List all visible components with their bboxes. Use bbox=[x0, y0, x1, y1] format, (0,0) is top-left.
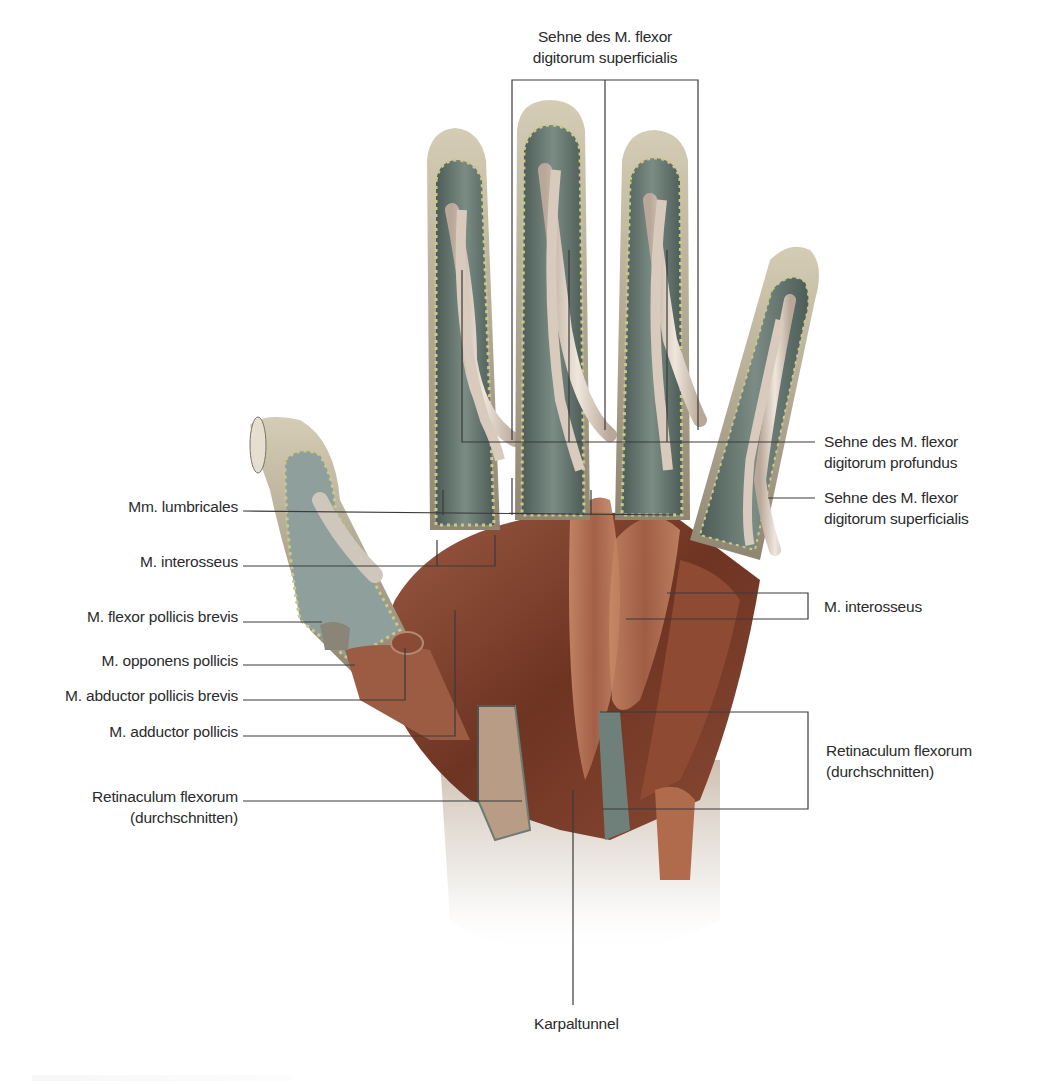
label-sehne-fds-top: Sehne des M. flexor digitorum superficia… bbox=[520, 26, 690, 68]
label-sehne-fds-right: Sehne des M. flexor digitorum superficia… bbox=[824, 487, 968, 529]
label-line-1: Sehne des M. flexor bbox=[824, 487, 968, 508]
label-line-2: (durchschnitten) bbox=[92, 807, 238, 828]
label-retinaculum-right: Retinaculum flexorum (durchschnitten) bbox=[826, 740, 972, 782]
label-sehne-fdp: Sehne des M. flexor digitorum profundus bbox=[824, 431, 958, 473]
label-m-abductor-pollicis-brevis: M. abductor pollicis brevis bbox=[65, 685, 238, 706]
label-line-1: Retinaculum flexorum bbox=[92, 786, 238, 807]
label-m-flexor-pollicis-brevis: M. flexor pollicis brevis bbox=[87, 606, 238, 627]
hand-illustration bbox=[0, 0, 1038, 1084]
faint-caption-remnant bbox=[32, 1075, 292, 1081]
label-retinaculum-left: Retinaculum flexorum (durchschnitten) bbox=[92, 786, 238, 828]
label-line-2: digitorum profundus bbox=[824, 452, 958, 473]
label-line-1: Sehne des M. flexor bbox=[520, 26, 690, 47]
label-m-opponens-pollicis: M. opponens pollicis bbox=[102, 650, 238, 671]
label-mm-lumbricales: Mm. lumbricales bbox=[128, 496, 238, 517]
label-line-2: digitorum superficialis bbox=[520, 47, 690, 68]
label-line-2: (durchschnitten) bbox=[826, 761, 972, 782]
label-m-adductor-pollicis: M. adductor pollicis bbox=[109, 721, 238, 742]
label-line-1: Retinaculum flexorum bbox=[826, 740, 972, 761]
middle-finger bbox=[515, 100, 610, 520]
label-karpaltunnel: Karpaltunnel bbox=[534, 1013, 619, 1034]
little-finger bbox=[690, 247, 819, 560]
label-line-2: digitorum superficialis bbox=[824, 508, 968, 529]
label-m-interosseus-right: M. interosseus bbox=[824, 596, 922, 617]
label-line-1: Sehne des M. flexor bbox=[824, 431, 958, 452]
anatomy-figure: Sehne des M. flexor digitorum superficia… bbox=[0, 0, 1038, 1084]
ring-finger bbox=[615, 130, 700, 520]
label-m-interosseus-left: M. interosseus bbox=[140, 551, 238, 572]
index-finger bbox=[427, 128, 515, 530]
